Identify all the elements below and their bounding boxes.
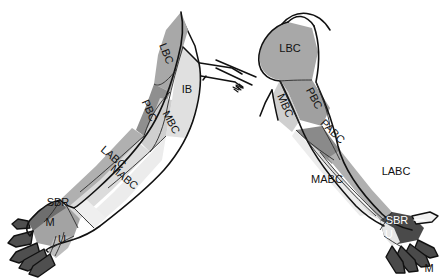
right-label-mabc: MABC xyxy=(311,173,343,185)
right-arm-group: LBC PBC MBC PABC LABC MABC SBR U M xyxy=(216,13,438,274)
right-label-labc: LABC xyxy=(382,165,411,177)
left-label-u: U xyxy=(58,233,66,245)
right-label-lbc: LBC xyxy=(279,42,300,54)
left-arm-group: LBC IB PBC MBC LABC MABC SBR M U xyxy=(8,12,243,277)
left-label-m: M xyxy=(45,216,54,228)
right-label-u: U xyxy=(385,228,393,240)
right-hand-thumb xyxy=(412,212,438,224)
anatomical-figure: LBC IB PBC MBC LABC MABC SBR M U xyxy=(0,0,442,280)
right-trunk-lines xyxy=(216,60,256,85)
upper-limb-nerve-diagram: LBC IB PBC MBC LABC MABC SBR M U xyxy=(0,0,442,280)
right-label-sbr: SBR xyxy=(386,214,409,226)
right-label-m: M xyxy=(424,262,433,274)
right-medial-branch xyxy=(260,90,272,116)
left-label-sbr: SBR xyxy=(47,196,70,208)
left-label-ib: IB xyxy=(182,83,192,95)
